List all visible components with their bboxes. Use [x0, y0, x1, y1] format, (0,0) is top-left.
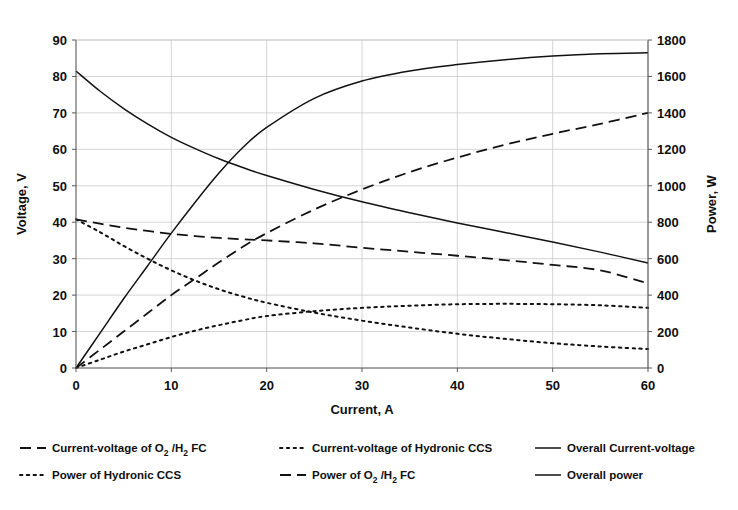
y-right-tick-label: 200 — [657, 325, 679, 340]
legend-label-1[interactable]: Current-voltage of Hydronic CCS — [312, 442, 493, 454]
y-left-tick-label: 0 — [60, 361, 67, 376]
legend-label-4[interactable]: Power of O2 /H2 FC — [312, 469, 415, 485]
chart-legend: Current-voltage of O2 /H2 FCCurrent-volt… — [20, 442, 695, 485]
grid-lines — [76, 40, 648, 368]
legend-label-post: FC — [188, 442, 207, 454]
x-tick-label: 20 — [259, 378, 273, 393]
legend-label-2[interactable]: Overall Current-voltage — [567, 442, 695, 454]
y-left-tick-label: 20 — [53, 288, 67, 303]
x-tick-label: 40 — [450, 378, 464, 393]
y-left-tick-label: 40 — [53, 215, 67, 230]
clipped-title-fragment — [150, 0, 470, 3]
current-voltage-power-chart: 0102030405060708090020040060080010001200… — [0, 0, 738, 510]
legend-label-5[interactable]: Overall power — [567, 469, 644, 481]
legend-label-main: Current-voltage of O — [52, 442, 164, 454]
x-tick-label: 0 — [72, 378, 79, 393]
legend-label-mid: /H — [377, 469, 392, 481]
legend-label-post: FC — [397, 469, 416, 481]
legend-label-main: Current-voltage of Hydronic CCS — [312, 442, 493, 454]
chart-figure: 0102030405060708090020040060080010001200… — [0, 0, 738, 510]
x-tick-label: 50 — [545, 378, 559, 393]
legend-label-main: Overall power — [567, 469, 644, 481]
y-right-tick-label: 1600 — [657, 69, 686, 84]
y-right-tick-label: 600 — [657, 252, 679, 267]
y-left-tick-label: 60 — [53, 142, 67, 157]
y-right-tick-label: 1800 — [657, 33, 686, 48]
legend-label-mid: /H — [169, 442, 184, 454]
x-tick-label: 10 — [164, 378, 178, 393]
y-left-tick-label: 80 — [53, 69, 67, 84]
y-right-tick-label: 400 — [657, 288, 679, 303]
y-axis-left-title: Voltage, V — [14, 173, 29, 235]
y-left-tick-label: 50 — [53, 179, 67, 194]
y-left-tick-label: 70 — [53, 106, 67, 121]
y-right-tick-label: 1200 — [657, 142, 686, 157]
legend-label-3[interactable]: Power of Hydronic CCS — [52, 469, 181, 481]
y-left-tick-label: 30 — [53, 252, 67, 267]
legend-label-0[interactable]: Current-voltage of O2 /H2 FC — [52, 442, 207, 458]
y-axis-right-title: Power, W — [704, 174, 719, 233]
legend-label-main: Power of O — [312, 469, 373, 481]
y-right-tick-label: 800 — [657, 215, 679, 230]
legend-label-main: Overall Current-voltage — [567, 442, 695, 454]
legend-label-main: Power of Hydronic CCS — [52, 469, 181, 481]
y-right-tick-label: 1000 — [657, 179, 686, 194]
x-tick-label: 30 — [355, 378, 369, 393]
y-right-tick-label: 1400 — [657, 106, 686, 121]
y-left-tick-label: 90 — [53, 33, 67, 48]
y-left-tick-label: 10 — [53, 325, 67, 340]
axis-tick-labels: 0102030405060708090020040060080010001200… — [53, 33, 686, 393]
y-right-tick-label: 0 — [657, 361, 664, 376]
x-tick-label: 60 — [641, 378, 655, 393]
x-axis-title: Current, A — [330, 402, 394, 417]
